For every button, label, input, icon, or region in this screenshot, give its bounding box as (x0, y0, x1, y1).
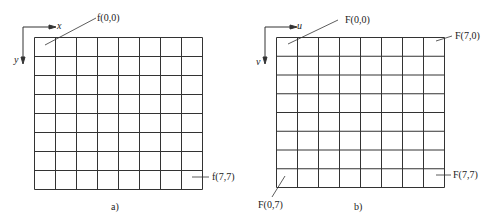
axis-label-y: y (14, 55, 18, 65)
label-F77: F(7,7) (453, 170, 478, 180)
grid-a (35, 38, 203, 190)
label-f00: f(0,0) (97, 13, 120, 23)
label-F07: F(0,7) (258, 200, 283, 210)
leaders-a (45, 18, 209, 177)
axes-b (263, 25, 297, 64)
caption-b: b) (354, 201, 362, 212)
axis-label-u: u (297, 21, 302, 31)
label-F00: F(0,0) (345, 15, 370, 25)
axis-label-v: v (256, 57, 260, 67)
axis-label-x: x (57, 21, 61, 31)
diagram-canvas (0, 0, 490, 224)
leaders-b (272, 20, 452, 197)
axes-a (21, 25, 56, 64)
grid-b (277, 38, 445, 188)
label-f77: f(7,7) (212, 172, 235, 182)
label-F70: F(7,0) (455, 31, 480, 41)
caption-a: a) (111, 201, 119, 212)
